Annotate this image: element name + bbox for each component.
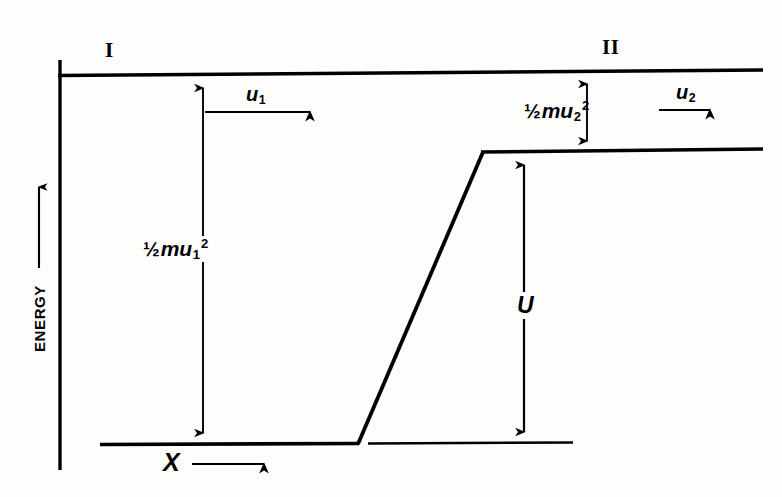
kinetic-energy-2-exponent: 2 xyxy=(581,98,589,113)
energy-axis-caption: ENERGY xyxy=(32,285,47,352)
kinetic-energy-2-subscript: 2 xyxy=(573,109,581,124)
kinetic-energy-2-body: mu xyxy=(542,99,574,122)
diagram-canvas xyxy=(0,0,782,497)
kinetic-energy-1-fraction: ½ xyxy=(143,238,161,260)
velocity-2-subscript: 2 xyxy=(688,91,695,105)
velocity-2-label: u2 xyxy=(676,82,696,104)
velocity-1-symbol: u xyxy=(246,83,258,105)
potential-low-plateau xyxy=(100,444,359,445)
kinetic-energy-1-exponent: 2 xyxy=(200,236,208,251)
kinetic-energy-2-label: ½mu22 xyxy=(524,99,589,123)
kinetic-energy-1-label: ½mu12 xyxy=(140,236,211,262)
energy-barrier-figure: I II ENERGY ½mu12 ½mu22 u1 u2 U X xyxy=(0,0,782,497)
velocity-1-label: u1 xyxy=(246,84,266,106)
region-label-I: I xyxy=(105,40,114,61)
potential-high-plateau xyxy=(481,149,763,152)
region-label-II: II xyxy=(602,37,619,58)
barrier-height-label: U xyxy=(513,292,538,319)
kinetic-energy-2-fraction: ½ xyxy=(524,100,542,122)
kinetic-energy-1-subscript: 1 xyxy=(192,247,200,262)
velocity-2-symbol: u xyxy=(676,81,688,103)
potential-ramp xyxy=(358,152,483,444)
velocity-1-subscript: 1 xyxy=(258,93,265,107)
region2-reference-baseline xyxy=(368,443,573,444)
x-axis-label: X xyxy=(163,450,180,475)
kinetic-energy-1-body: mu xyxy=(161,237,193,260)
total-energy-line xyxy=(58,70,763,76)
